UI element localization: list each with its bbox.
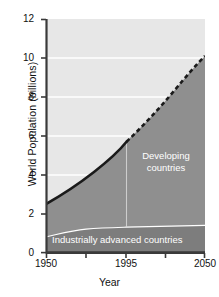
advanced-countries-label: Industrially advanced countries: [52, 234, 182, 246]
developing-countries-label: Developing countries: [130, 150, 202, 173]
y-axis-ticks: [41, 20, 46, 253]
population-chart-figure: World Population (billions) 12 10 8 6 4 …: [0, 0, 219, 297]
developing-countries-label-line1: Developing: [130, 150, 202, 162]
plot-area: [0, 0, 219, 297]
developing-countries-label-line2: countries: [130, 162, 202, 174]
